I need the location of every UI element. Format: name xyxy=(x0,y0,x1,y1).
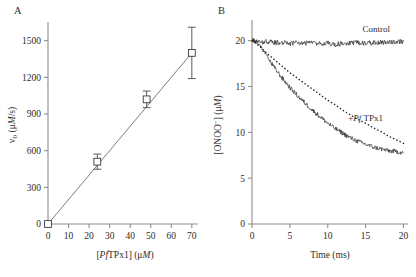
panel-a-y-axis-label: v0 (μM/s) xyxy=(7,107,19,143)
panel-a-x-tick-label: 0 xyxy=(46,231,51,241)
panel-a-data-point xyxy=(94,158,101,165)
panel-a-y-tick-label: 0 xyxy=(36,219,41,229)
panel-a-x-tick-label: 70 xyxy=(187,231,197,241)
panel-b-annotation-1: Control xyxy=(362,24,390,34)
panel-a-x-tick-label: 30 xyxy=(105,231,115,241)
panel-b-x-tick-label: 10 xyxy=(323,231,333,241)
panel-a-data-point xyxy=(188,49,195,56)
panel-a-y-tick-label: 1500 xyxy=(22,36,41,46)
panel-a-x-tick-label: 60 xyxy=(167,231,177,241)
panel-b-series-2 xyxy=(252,39,403,155)
panel-a-chart: A 030060090012001500010203040506070 [PfT… xyxy=(0,0,208,277)
panel-b-series-3 xyxy=(252,41,403,144)
panel-b: B 0510152005101520 Time (ms) [ONOO−] (μM… xyxy=(208,0,416,277)
panel-b-x-tick-label: 20 xyxy=(399,231,409,241)
panel-a-y-tick-label: 600 xyxy=(27,146,42,156)
panel-a-letter: A xyxy=(14,5,22,16)
panel-a: A 030060090012001500010203040506070 [PfT… xyxy=(0,0,208,277)
panel-b-annotation-2: +Pf TPx1 xyxy=(348,113,383,123)
panel-b-x-tick-label: 15 xyxy=(361,231,371,241)
panel-a-y-axis-title: v0 (μM/s) xyxy=(7,107,19,143)
panel-b-x-axis-title: Time (ms) xyxy=(310,250,350,261)
panel-b-chart: B 0510152005101520 Time (ms) [ONOO−] (μM… xyxy=(208,0,416,277)
panel-b-letter: B xyxy=(218,5,225,16)
panel-a-fit-line xyxy=(48,53,192,224)
panel-a-x-tick-label: 10 xyxy=(64,231,74,241)
panel-a-x-tick-label: 40 xyxy=(125,231,135,241)
panel-b-y-tick-label: 10 xyxy=(236,128,246,138)
panel-b-annotations: Control+Pf TPx1 xyxy=(348,24,390,124)
panel-b-y-tick-label: 5 xyxy=(240,174,245,184)
panel-a-x-axis-title: [PfTPx1] (μM) xyxy=(96,250,153,261)
panel-b-x-tick-label: 5 xyxy=(287,231,292,241)
panel-b-y-tick-label: 20 xyxy=(236,36,246,46)
panel-a-y-tick-label: 300 xyxy=(27,183,42,193)
panel-b-y-tick-label: 0 xyxy=(240,219,245,229)
figure-root: A 030060090012001500010203040506070 [PfT… xyxy=(0,0,416,277)
panel-a-y-tick-label: 1200 xyxy=(22,73,41,83)
panel-b-y-tick-label: 15 xyxy=(236,82,246,92)
panel-b-x-tick-label: 0 xyxy=(250,231,255,241)
panel-a-y-tick-label: 900 xyxy=(27,109,42,119)
panel-a-x-tick-label: 50 xyxy=(146,231,156,241)
panel-b-plot-area: 0510152005101520 xyxy=(236,20,409,241)
panel-b-y-axis-label: [ONOO−] (μM) xyxy=(212,95,224,154)
panel-a-x-tick-label: 20 xyxy=(84,231,94,241)
panel-a-plot-area: 030060090012001500010203040506070 xyxy=(22,22,198,241)
panel-b-y-axis-title: [ONOO−] (μM) xyxy=(212,95,224,154)
panel-a-data-point xyxy=(143,96,150,103)
panel-b-series-1 xyxy=(252,38,403,46)
panel-a-data-point xyxy=(45,221,52,228)
